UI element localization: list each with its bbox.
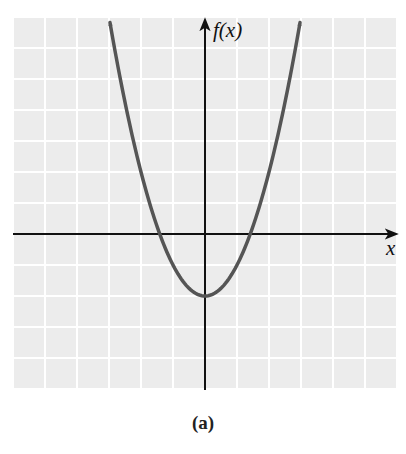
figure-caption: (a) (0, 412, 406, 434)
y-axis-label: f(x) (213, 18, 242, 42)
parabola-chart: f(x) x (0, 0, 406, 454)
x-axis-label: x (385, 236, 396, 260)
